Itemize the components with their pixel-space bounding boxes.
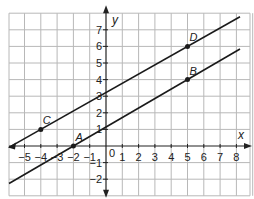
point-label-d: D bbox=[190, 31, 198, 43]
point-d bbox=[185, 44, 190, 49]
x-tick-label: 4 bbox=[168, 151, 174, 163]
point-label-a: A bbox=[74, 131, 82, 143]
y-axis-up-arrow-icon bbox=[103, 5, 109, 13]
x-tick-label: 1 bbox=[119, 151, 125, 163]
point-c bbox=[38, 127, 43, 132]
x-axis-arrow-icon bbox=[244, 143, 252, 149]
point-label-c: C bbox=[43, 114, 51, 126]
point-label-b: B bbox=[190, 65, 197, 77]
y-axis-down-arrow-icon bbox=[103, 190, 109, 198]
y-tick-label: 6 bbox=[96, 40, 102, 52]
x-tick-label: −5 bbox=[18, 151, 31, 163]
y-tick-label: 4 bbox=[96, 74, 102, 86]
tick-labels: −5−4−3−2−1012345678−2−11234567 bbox=[18, 24, 239, 185]
x-tick-label: 0 bbox=[109, 147, 115, 159]
point-b bbox=[185, 77, 190, 82]
coordinate-graph: −5−4−3−2−1012345678−2−11234567 ABCD x y bbox=[0, 0, 254, 199]
y-tick-label: −2 bbox=[89, 173, 102, 185]
x-tick-label: 8 bbox=[233, 151, 239, 163]
x-tick-label: 6 bbox=[201, 151, 207, 163]
y-tick-label: 2 bbox=[96, 107, 102, 119]
x-axis-label: x bbox=[237, 128, 245, 142]
x-tick-label: −2 bbox=[67, 151, 80, 163]
points: ABCD bbox=[38, 31, 197, 148]
x-tick-label: 3 bbox=[152, 151, 158, 163]
point-a bbox=[71, 144, 76, 149]
y-tick-label: 7 bbox=[96, 24, 102, 36]
x-tick-label: 2 bbox=[136, 151, 142, 163]
axes bbox=[9, 5, 252, 198]
x-tick-label: −4 bbox=[35, 151, 48, 163]
grid bbox=[9, 13, 253, 196]
y-tick-label: 5 bbox=[96, 57, 102, 69]
line-cd bbox=[9, 17, 240, 148]
y-tick-label: −1 bbox=[89, 157, 102, 169]
x-tick-label: 7 bbox=[217, 151, 223, 163]
x-tick-label: 5 bbox=[184, 151, 190, 163]
y-axis-label: y bbox=[111, 13, 119, 27]
